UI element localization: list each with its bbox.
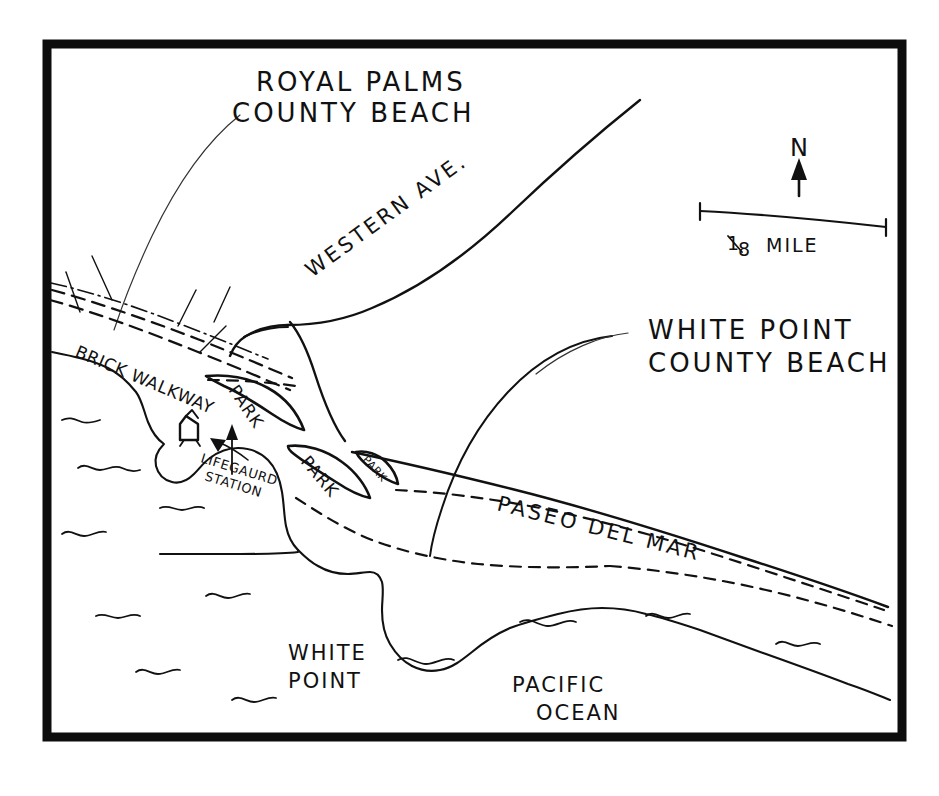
lifeguard-station-building-icon: [180, 410, 200, 446]
leader-white-point-beach: [536, 333, 628, 374]
leader-royal-palms: [114, 115, 240, 330]
wave-icon: [62, 418, 100, 423]
label-western-ave: WESTERN AVE.: [301, 149, 472, 282]
hand-drawn-map: ROYAL PALMS COUNTY BEACH WHITE POINT COU…: [0, 0, 939, 796]
wave-icon: [78, 466, 140, 471]
wave-icon: [96, 615, 140, 618]
road-western-ave-spur: [230, 325, 288, 356]
wave-icon: [160, 507, 204, 510]
scale-bar-line: [700, 211, 886, 227]
walkway-tick-2: [92, 256, 112, 300]
label-compass-north: N: [790, 134, 809, 162]
map-canvas: ROYAL PALMS COUNTY BEACH WHITE POINT COU…: [0, 0, 939, 796]
wave-icon: [136, 670, 180, 674]
label-white-point-beach-line1: WHITE POINT: [648, 315, 854, 345]
coastline-bay-edge: [160, 552, 298, 554]
label-paseo-del-mar: PASEO DEL MAR: [495, 492, 704, 566]
road-stub-west: [244, 327, 288, 337]
trail-segment-east: [610, 566, 892, 626]
label-royal-palms-line2: COUNTY BEACH: [232, 98, 474, 128]
label-white-point-line2: POINT: [288, 669, 362, 693]
road-junction-branch: [290, 322, 345, 441]
park-arrow-head: [226, 424, 238, 440]
label-scale-unit: MILE: [766, 234, 819, 256]
wave-icon: [206, 594, 250, 598]
building-body: [180, 416, 198, 440]
label-brick-walkway: BRICK WALKWAY: [72, 341, 217, 418]
road-western-ave: [288, 100, 640, 325]
label-royal-palms-line1: ROYAL PALMS: [256, 67, 466, 97]
label-scale-fraction-denominator: 8: [738, 238, 752, 260]
label-white-point-line1: WHITE: [288, 641, 367, 665]
wave-icon: [62, 532, 106, 536]
label-white-point-beach-line2: COUNTY BEACH: [648, 348, 890, 378]
north-arrow-icon: [791, 158, 807, 196]
label-pacific-ocean-line1: PACIFIC: [512, 673, 605, 697]
wave-icon: [232, 698, 276, 702]
walkway-tick-4: [214, 287, 230, 322]
walkway-tick-3: [178, 290, 196, 326]
label-pacific-ocean-line2: OCEAN: [536, 701, 621, 725]
ocean-wave-symbols: [62, 418, 820, 702]
coastline-white-point-east: [412, 608, 890, 700]
wave-icon: [776, 642, 820, 646]
